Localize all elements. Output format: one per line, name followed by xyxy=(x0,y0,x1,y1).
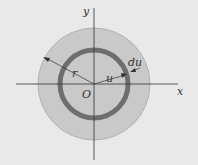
inner-radius-label: u xyxy=(106,72,113,85)
y-axis-label: y xyxy=(82,5,90,18)
outer-radius-label: r xyxy=(72,67,78,80)
origin-label: O xyxy=(82,88,91,101)
ring-width-label: du xyxy=(128,56,142,69)
disk-diagram: y x O r u du xyxy=(0,0,198,165)
x-axis-label: x xyxy=(177,85,184,98)
